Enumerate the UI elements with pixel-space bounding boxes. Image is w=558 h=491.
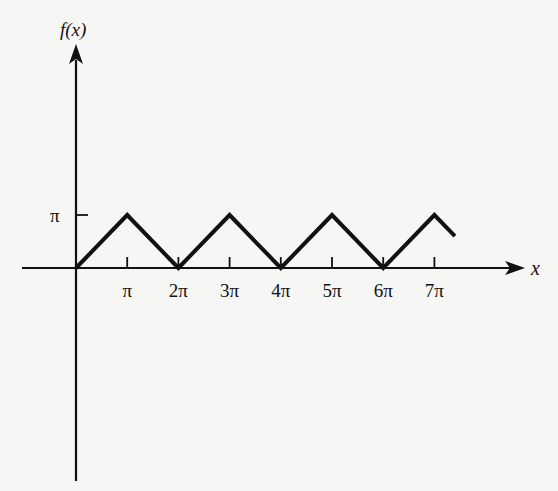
x-tick-label: 6π xyxy=(374,280,394,301)
triangle-wave-plot: f(x) x π π2π3π4π5π6π7π xyxy=(0,0,558,491)
x-tick-label: 5π xyxy=(322,280,342,301)
x-tick-labels: π2π3π4π5π6π7π xyxy=(122,280,444,301)
triangle-wave-curve xyxy=(76,215,455,268)
x-tick-label: 7π xyxy=(425,280,445,301)
x-tick-label: 2π xyxy=(169,280,189,301)
x-axis-label: x xyxy=(530,257,540,279)
y-axis-label: f(x) xyxy=(60,19,86,41)
x-tick-label: 4π xyxy=(271,280,291,301)
x-tick-label: π xyxy=(122,280,132,301)
y-tick-label-pi: π xyxy=(50,205,60,226)
x-tick-label: 3π xyxy=(220,280,240,301)
